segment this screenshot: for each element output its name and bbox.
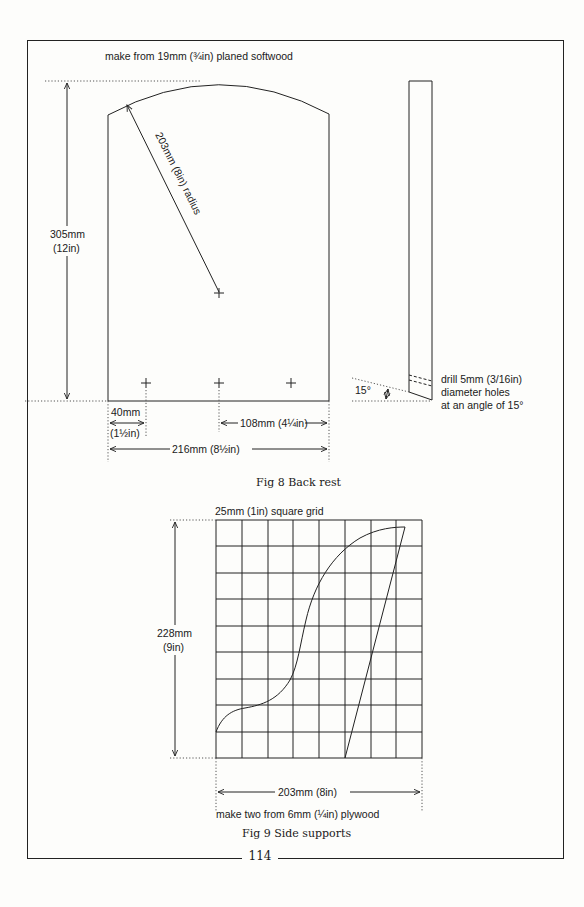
angle-arrow <box>386 389 388 399</box>
fig8-half-width-label: 108mm (4¼in) <box>240 417 308 429</box>
fig8-offset-mm: 40mm <box>111 406 140 418</box>
fig9-grid <box>216 520 422 758</box>
drill-hole-dashes <box>409 375 432 386</box>
fig8-drill-note-line1: drill 5mm (3/16in) <box>441 373 522 385</box>
fig8-drill-note-line2: diameter holes <box>441 386 510 398</box>
hole-crosses <box>141 378 296 388</box>
fig9-grid-note: 25mm (1in) square grid <box>215 505 324 517</box>
center-cross <box>214 288 224 298</box>
fig9-caption: Fig 9 Side supports <box>242 827 351 840</box>
fig8-height-in: (12in) <box>53 242 80 254</box>
fig8-offset-in: (1½in) <box>110 427 140 439</box>
fig9-material-note: make two from 6mm (¼in) plywood <box>216 808 379 820</box>
fig8-angle-label: 15° <box>355 384 371 396</box>
technical-drawing <box>0 0 584 907</box>
fig9-width-label: 203mm (8in) <box>278 786 337 798</box>
fig8-back-rest-panel <box>108 85 329 401</box>
fig8-width-label: 216mm (8½in) <box>172 443 240 455</box>
fig9-height-in: (9in) <box>163 641 184 653</box>
fig8-drill-note-line3: at an angle of 15° <box>441 399 523 411</box>
fig8-side-view <box>409 81 432 400</box>
fig8-height-mm: 305mm <box>50 228 85 240</box>
radius-line <box>127 105 219 292</box>
fig8-material-note: make from 19mm (¾in) planed softwood <box>105 50 293 62</box>
fig9-height-mm: 228mm <box>157 627 192 639</box>
side-support-profile <box>216 527 405 758</box>
fig8-caption: Fig 8 Back rest <box>256 476 341 489</box>
